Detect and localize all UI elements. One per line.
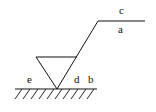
label-a: a bbox=[118, 24, 123, 35]
surface-roughness-symbol bbox=[0, 0, 156, 112]
label-d: d bbox=[74, 74, 80, 85]
triangle-left-edge bbox=[36, 57, 57, 89]
surface-hatching bbox=[15, 89, 94, 99]
label-c: c bbox=[119, 5, 124, 16]
label-b: b bbox=[88, 74, 94, 85]
label-e: e bbox=[27, 74, 32, 85]
